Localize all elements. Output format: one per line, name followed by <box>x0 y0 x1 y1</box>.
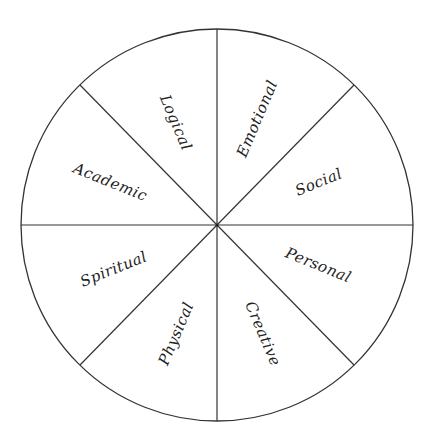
segment-label-emotional: Emotional <box>232 77 281 160</box>
segment-label-creative: Creative <box>241 298 284 368</box>
segment-label-logical: Logical <box>156 91 196 153</box>
segment-label-academic: Academic <box>69 158 150 205</box>
segment-label-physical: Physical <box>154 299 197 369</box>
segment-label-social: Social <box>292 165 344 200</box>
wheel-center <box>216 224 219 227</box>
segment-label-personal: Personal <box>282 243 354 286</box>
segment-label-spiritual: Spiritual <box>78 248 150 291</box>
wheel-diagram: Emotional Social Personal Creative Physi… <box>0 0 429 435</box>
